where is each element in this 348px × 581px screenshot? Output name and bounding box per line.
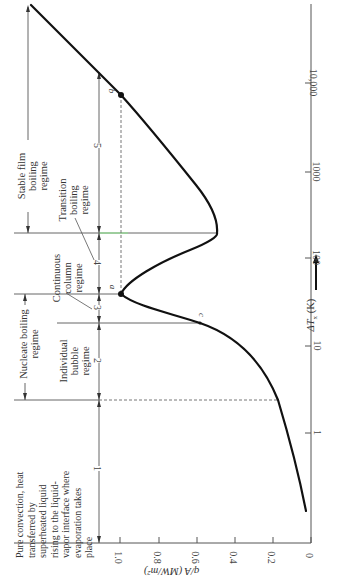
x-axis-title-subscript: x <box>311 316 319 320</box>
individual-bubble-label: Individual bubble regime <box>58 333 92 389</box>
nucleate-line: Nucleate boiling <box>18 304 29 384</box>
column-line: regime <box>73 248 84 308</box>
region-number-4: 4 <box>92 260 103 265</box>
nucleate-boiling-label: Nucleate boiling regime <box>18 304 42 384</box>
y-tick-0.6: 0.6 <box>190 551 201 564</box>
region1-line: vapor interface where <box>60 410 72 558</box>
region-number-3: 3 <box>92 305 103 310</box>
point-a-label: a <box>108 285 118 290</box>
continuous-column-label: Continuous column regime <box>51 248 85 308</box>
y-axis-ticks <box>120 537 311 543</box>
film-arrow-head <box>26 5 30 12</box>
bubble-line: Individual <box>58 333 69 389</box>
boiling-curve-chart: Pure convection, heat transferred by sup… <box>0 0 348 581</box>
x-axis-title-unit: (K) <box>305 299 316 316</box>
film-arrow-head-lower <box>26 226 30 233</box>
nucleate-line: regime <box>29 304 40 384</box>
nucleate-arrow-head-top <box>23 294 27 301</box>
y-tick-0: 0 <box>304 553 315 558</box>
point-b-label: b <box>107 89 117 94</box>
region-number-1: 1 <box>92 466 103 471</box>
region1-line: place <box>83 410 95 558</box>
region1-line: rising to the liquid- <box>49 410 61 558</box>
x-tick-100: 100 <box>311 250 322 265</box>
stable-film-label: Stable film boiling regime <box>16 146 50 206</box>
column-line: column <box>62 248 73 308</box>
region-number-2: 2 <box>92 358 103 363</box>
bubble-line: bubble <box>69 333 80 389</box>
region1-line: superheated liquid <box>37 410 49 558</box>
x-tick-10000: 10,000 <box>308 69 319 97</box>
y-tick-0.8: 0.8 <box>152 551 163 564</box>
region-number-5: 5 <box>92 143 103 148</box>
region1-line: evaporation takes <box>72 410 84 558</box>
x-axis-title: ΔTx (K) <box>305 299 319 332</box>
x-axis-title-symbol: ΔT <box>305 319 316 331</box>
y-tick-0.4: 0.4 <box>228 551 239 564</box>
film-line: regime <box>38 146 49 206</box>
transition-boiling-label: Transition boiling regime <box>57 172 91 228</box>
transition-line: Transition <box>57 172 68 228</box>
column-line: Continuous <box>51 248 62 308</box>
y-tick-0.2: 0.2 <box>266 551 277 564</box>
y-axis-title: q/A (MW/m²) <box>144 566 199 577</box>
film-line: boiling <box>27 146 38 206</box>
x-tick-1: 1 <box>312 430 323 435</box>
x-tick-10: 10 <box>312 341 323 351</box>
y-tick-1.0: 1.0 <box>113 551 124 564</box>
point-c-marker <box>198 321 201 324</box>
bubble-line: regime <box>80 333 91 389</box>
point-c-label: c <box>197 313 207 317</box>
x-tick-1000: 1000 <box>311 162 322 182</box>
transition-line: regime <box>79 172 90 228</box>
point-b-marker <box>118 92 124 98</box>
region1-line: Pure convection, heat <box>14 410 26 558</box>
point-a-marker <box>118 291 124 297</box>
nucleate-arrow-head-bottom <box>23 393 27 400</box>
region1-line: transferred by <box>26 410 38 558</box>
transition-line: boiling <box>68 172 79 228</box>
film-line: Stable film <box>16 146 27 206</box>
region1-description: Pure convection, heat transferred by sup… <box>14 410 98 558</box>
